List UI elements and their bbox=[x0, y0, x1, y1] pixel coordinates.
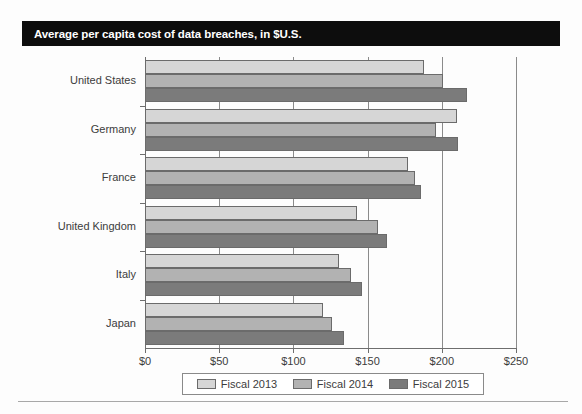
bottom-divider bbox=[18, 401, 568, 402]
y-axis-category-label: Italy bbox=[0, 268, 136, 280]
bar bbox=[145, 303, 323, 317]
y-axis-category-label: United States bbox=[0, 74, 136, 86]
bar bbox=[145, 60, 424, 74]
x-axis-tick-label: $150 bbox=[355, 355, 379, 367]
bar bbox=[145, 74, 443, 88]
bar bbox=[145, 206, 357, 220]
x-axis-tick bbox=[145, 348, 146, 353]
x-axis-tick bbox=[219, 348, 220, 353]
bar bbox=[145, 109, 457, 123]
bar bbox=[145, 123, 436, 137]
legend-label: Fiscal 2013 bbox=[221, 378, 277, 390]
y-axis-tick bbox=[140, 251, 145, 252]
plot-wrapper: $0$50$100$150$200$250United StatesGerman… bbox=[0, 0, 582, 414]
x-axis-tick-label: $50 bbox=[210, 355, 228, 367]
legend-swatch bbox=[293, 379, 312, 389]
x-axis-tick-label: $0 bbox=[139, 355, 151, 367]
y-axis-tick bbox=[140, 203, 145, 204]
y-axis-tick bbox=[140, 106, 145, 107]
legend-entry[interactable]: Fiscal 2013 bbox=[197, 378, 277, 390]
bar bbox=[145, 171, 415, 185]
y-axis-category-label: France bbox=[0, 171, 136, 183]
bar bbox=[145, 317, 332, 331]
legend-entry[interactable]: Fiscal 2014 bbox=[293, 378, 373, 390]
bar bbox=[145, 234, 387, 248]
legend-entry[interactable]: Fiscal 2015 bbox=[389, 378, 469, 390]
x-axis-tick bbox=[293, 348, 294, 353]
x-axis-line bbox=[145, 348, 517, 349]
y-axis-category-label: United Kingdom bbox=[0, 220, 136, 232]
legend-label: Fiscal 2015 bbox=[413, 378, 469, 390]
bar bbox=[145, 220, 378, 234]
bar bbox=[145, 254, 339, 268]
legend-swatch bbox=[389, 379, 408, 389]
y-axis-tick bbox=[140, 154, 145, 155]
y-axis-tick bbox=[140, 300, 145, 301]
legend-swatch bbox=[197, 379, 216, 389]
x-axis-tick bbox=[442, 348, 443, 353]
y-axis-category-label: Germany bbox=[0, 123, 136, 135]
x-axis-tick bbox=[516, 348, 517, 353]
bar bbox=[145, 268, 351, 282]
x-axis-tick-label: $100 bbox=[281, 355, 305, 367]
gridline bbox=[516, 57, 517, 348]
bar bbox=[145, 185, 421, 199]
x-axis-tick-label: $250 bbox=[504, 355, 528, 367]
legend-label: Fiscal 2014 bbox=[317, 378, 373, 390]
bar bbox=[145, 157, 408, 171]
bar bbox=[145, 331, 344, 345]
chart-legend: Fiscal 2013Fiscal 2014Fiscal 2015 bbox=[182, 373, 484, 395]
x-axis-tick bbox=[368, 348, 369, 353]
y-axis-category-label: Japan bbox=[0, 317, 136, 329]
chart-figure: Average per capita cost of data breaches… bbox=[0, 0, 582, 414]
bar bbox=[145, 137, 458, 151]
bar bbox=[145, 282, 362, 296]
bar bbox=[145, 88, 467, 102]
x-axis-tick-label: $200 bbox=[430, 355, 454, 367]
